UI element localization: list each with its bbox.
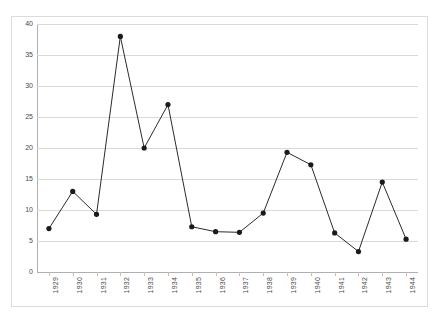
line-chart: 0510152025303540 19291930193119321933193… bbox=[0, 0, 439, 313]
x-axis-labels: 1929193019311932193319341935193619371938… bbox=[37, 277, 418, 307]
x-tick bbox=[97, 272, 98, 276]
y-tick-label: 40 bbox=[11, 20, 33, 28]
data-point-marker bbox=[237, 230, 242, 235]
x-tick bbox=[406, 272, 407, 276]
data-point-marker bbox=[284, 150, 289, 155]
y-tick-label: 15 bbox=[11, 175, 33, 183]
x-tick bbox=[311, 272, 312, 276]
x-tick-label: 1933 bbox=[147, 277, 155, 293]
data-point-marker bbox=[189, 224, 194, 229]
data-point-marker bbox=[380, 180, 385, 185]
data-point-marker bbox=[46, 226, 51, 231]
x-axis-ticks bbox=[37, 272, 418, 276]
data-point-marker bbox=[332, 230, 337, 235]
x-tick bbox=[144, 272, 145, 276]
y-tick-label: 30 bbox=[11, 82, 33, 90]
x-tick-label: 1937 bbox=[242, 277, 250, 293]
y-axis-labels: 0510152025303540 bbox=[9, 24, 33, 273]
data-point-marker bbox=[403, 237, 408, 242]
x-tick bbox=[263, 272, 264, 276]
x-tick-label: 1929 bbox=[52, 277, 60, 293]
x-tick-label: 1940 bbox=[314, 277, 322, 293]
plot-area bbox=[37, 24, 418, 272]
data-point-marker bbox=[213, 229, 218, 234]
x-tick-label: 1943 bbox=[385, 277, 393, 293]
x-tick bbox=[335, 272, 336, 276]
y-tick-label: 35 bbox=[11, 51, 33, 59]
x-tick-label: 1944 bbox=[409, 277, 417, 293]
y-tick-label: 5 bbox=[11, 237, 33, 245]
x-tick-label: 1932 bbox=[123, 277, 131, 293]
y-tick-label: 25 bbox=[11, 113, 33, 121]
x-tick bbox=[73, 272, 74, 276]
x-tick-label: 1939 bbox=[290, 277, 298, 293]
x-tick bbox=[168, 272, 169, 276]
x-tick-label: 1941 bbox=[338, 277, 346, 293]
y-tick-label: 0 bbox=[11, 268, 33, 276]
data-point-marker bbox=[94, 212, 99, 217]
x-tick-label: 1931 bbox=[100, 277, 108, 293]
x-tick bbox=[382, 272, 383, 276]
series-markers bbox=[46, 34, 408, 254]
x-tick-label: 1936 bbox=[219, 277, 227, 293]
data-point-marker bbox=[356, 249, 361, 254]
data-point-marker bbox=[165, 102, 170, 107]
x-tick-label: 1938 bbox=[266, 277, 274, 293]
data-point-marker bbox=[70, 189, 75, 194]
x-tick-label: 1942 bbox=[361, 277, 369, 293]
x-tick-label: 1934 bbox=[171, 277, 179, 293]
x-tick bbox=[49, 272, 50, 276]
x-tick bbox=[287, 272, 288, 276]
series-line-group bbox=[37, 24, 418, 272]
y-tick-label: 20 bbox=[11, 144, 33, 152]
x-tick bbox=[120, 272, 121, 276]
data-point-marker bbox=[261, 211, 266, 216]
y-tick-label: 10 bbox=[11, 206, 33, 214]
x-tick bbox=[216, 272, 217, 276]
x-tick bbox=[192, 272, 193, 276]
x-tick-label: 1935 bbox=[195, 277, 203, 293]
data-point-marker bbox=[118, 34, 123, 39]
data-point-marker bbox=[142, 145, 147, 150]
x-tick-label: 1930 bbox=[76, 277, 84, 293]
x-tick bbox=[239, 272, 240, 276]
x-tick bbox=[358, 272, 359, 276]
data-point-marker bbox=[308, 162, 313, 167]
series-polyline bbox=[49, 36, 406, 251]
